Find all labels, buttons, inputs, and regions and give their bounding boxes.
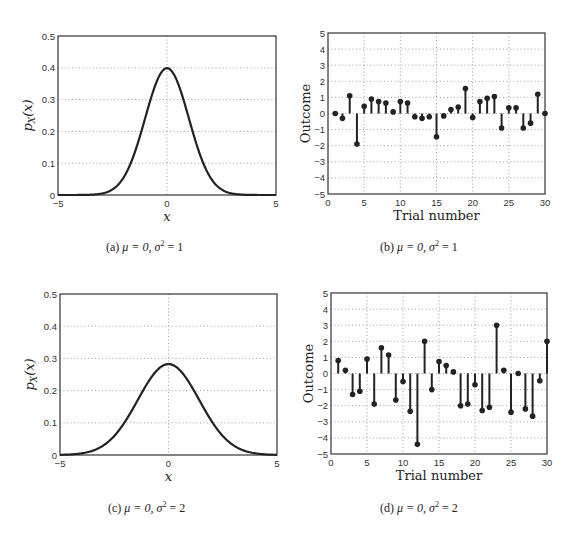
stem-marker [487, 405, 493, 411]
stem-marker [494, 322, 500, 328]
caption-d-rest: = 2 [439, 501, 458, 515]
stem-marker [357, 388, 363, 394]
caption-b-rest: = 1 [439, 240, 458, 254]
stem-marker [501, 367, 507, 373]
stem-marker [400, 379, 406, 385]
x-tick-label: 25 [506, 457, 517, 468]
x-tick-label: 5 [364, 457, 369, 468]
stem-marker [407, 409, 413, 415]
y-tick-label: −4 [317, 432, 328, 443]
stem-marker [537, 378, 543, 384]
y-tick-label: −1 [317, 384, 328, 395]
stem-marker [415, 442, 421, 448]
stem-marker [386, 352, 392, 358]
stem-marker [429, 387, 435, 393]
caption-a-label: (a) [106, 240, 119, 254]
caption-d-params: μ = 0, σ [397, 501, 435, 515]
stem-series [335, 322, 549, 447]
stem-marker [515, 371, 521, 377]
stem-marker [458, 403, 464, 409]
stem-marker [393, 397, 399, 403]
y-tick-label: −5 [317, 449, 328, 460]
x-axis-label: Trial number [396, 468, 483, 483]
caption-c-rest: = 2 [166, 501, 185, 515]
caption-d-label: (d) [380, 501, 394, 515]
y-tick-label: 5 [323, 288, 328, 299]
x-tick-label: 20 [470, 457, 481, 468]
caption-b-label: (b) [380, 240, 394, 254]
y-tick-label: 2 [323, 336, 328, 347]
caption-a-params: μ = 0, σ [122, 240, 160, 254]
stem-marker [523, 406, 529, 412]
y-axis-label: Outcome [301, 344, 316, 404]
y-tick-label: −3 [317, 416, 328, 427]
y-tick-label: 4 [323, 304, 328, 315]
stem-marker [451, 369, 457, 375]
x-tick-label: 0 [328, 457, 333, 468]
stem-marker [350, 392, 356, 398]
caption-c-params: μ = 0, σ [124, 501, 162, 515]
x-tick-label: 15 [434, 457, 445, 468]
stem-marker [544, 339, 550, 345]
stem-marker [508, 409, 514, 415]
caption-c: (c) μ = 0, σ2 = 2 [108, 500, 185, 516]
y-tick-label: 1 [323, 352, 328, 363]
stem-marker [530, 413, 536, 419]
caption-b: (b) μ = 0, σ2 = 1 [380, 239, 458, 255]
caption-a: (a) μ = 0, σ2 = 1 [106, 239, 183, 255]
stem-marker [371, 401, 377, 407]
chart-d-stem-trials-var2: 051015202530−5−4−3−2−1012345Trial number… [0, 0, 574, 542]
stem-marker [443, 363, 449, 369]
stem-marker [436, 359, 442, 365]
y-tick-label: 3 [323, 320, 328, 331]
stem-marker [422, 339, 428, 345]
y-tick-label: 0 [323, 368, 328, 379]
y-tick-label: −2 [317, 400, 328, 411]
stem-marker [343, 367, 349, 373]
stem-marker [364, 356, 370, 362]
x-tick-label: 30 [542, 457, 553, 468]
stem-marker [465, 401, 471, 407]
stem-marker [335, 358, 341, 364]
x-tick-label: 10 [398, 457, 409, 468]
stem-marker [479, 408, 485, 414]
caption-a-rest: = 1 [164, 240, 183, 254]
stem-marker [379, 345, 385, 351]
caption-c-label: (c) [108, 501, 121, 515]
caption-d: (d) μ = 0, σ2 = 2 [380, 500, 458, 516]
stem-marker [472, 382, 478, 388]
caption-b-params: μ = 0, σ [397, 240, 435, 254]
